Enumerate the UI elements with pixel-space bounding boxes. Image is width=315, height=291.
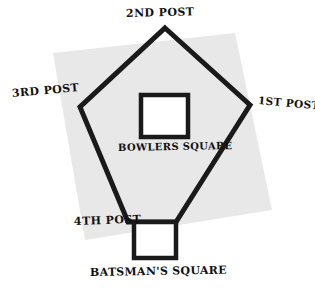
label-4th-post: 4TH POST bbox=[74, 214, 142, 227]
batsmans-square-outline bbox=[134, 222, 176, 258]
label-2nd-post: 2ND POST bbox=[126, 6, 195, 19]
bowlers-square-outline bbox=[141, 95, 188, 137]
label-batsmans-square: BATSMAN'S SQUARE bbox=[90, 265, 227, 278]
label-bowlers-square: BOWLERS SQUARE bbox=[118, 141, 233, 153]
diagram-canvas: 2ND POST 3RD POST 1ST POST 4TH POST BOWL… bbox=[0, 0, 315, 291]
